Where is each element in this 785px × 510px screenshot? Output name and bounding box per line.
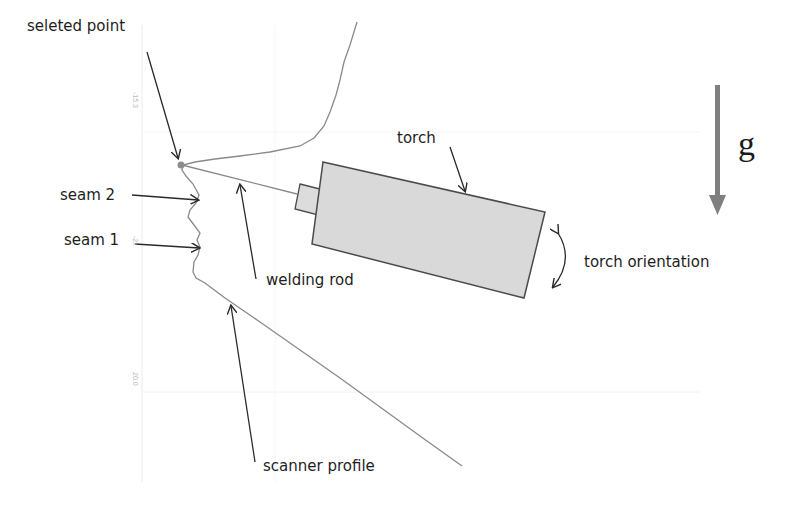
axis-tick-mid: -2x: [132, 236, 139, 246]
scanner-profile-arrow: [231, 306, 255, 462]
selected-point-arrow: [147, 52, 178, 158]
gravity-arrow: [709, 85, 726, 215]
welding-rod-line: [182, 165, 297, 194]
torch-arrow: [450, 147, 465, 191]
seam1-arrow: [135, 244, 199, 248]
selected-point-marker: [178, 162, 185, 169]
torch-orientation-label: torch orientation: [584, 253, 709, 271]
seam1-label: seam 1: [64, 231, 119, 249]
torch-orientation-arrow: [553, 233, 565, 287]
seam2-label: seam 2: [60, 186, 115, 204]
axis-tick-top: -15.3: [132, 92, 139, 108]
selected-point-label: seleted point: [27, 17, 125, 35]
torch-label: torch: [397, 129, 436, 147]
welding-rod-arrow: [240, 185, 256, 279]
axis-tick-bottom: 20.0: [132, 372, 139, 386]
welding-rod-label: welding rod: [266, 271, 354, 289]
gravity-label: g: [738, 125, 755, 163]
scanner-profile-label: scanner profile: [263, 457, 375, 475]
